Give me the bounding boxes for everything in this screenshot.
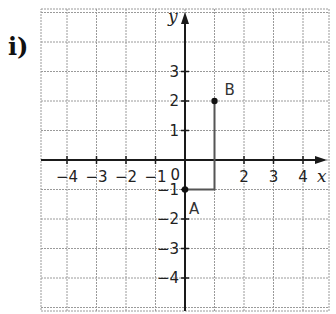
- x-tick-label: −3: [85, 168, 107, 186]
- x-tick-label: −2: [115, 168, 137, 186]
- point-a: [182, 186, 188, 192]
- y-tick-label: 2: [169, 92, 179, 110]
- x-tick-label: 4: [298, 168, 308, 186]
- origin-label: 0: [170, 166, 180, 184]
- y-tick-label: −2: [157, 210, 179, 228]
- x-axis-label: x: [317, 166, 327, 186]
- y-tick-label: 1: [169, 122, 179, 140]
- point-label-b: B: [225, 81, 235, 99]
- x-tick-label: 2: [239, 168, 249, 186]
- y-tick-label: −4: [157, 269, 179, 287]
- tick-labels: −4−3−2−1234321−1−2−3−40: [56, 63, 308, 288]
- y-axis-label: y: [167, 6, 178, 26]
- x-tick-label: −4: [56, 168, 78, 186]
- axes: xy: [41, 6, 327, 311]
- x-tick-label: 3: [269, 168, 279, 186]
- y-tick-label: 3: [169, 63, 179, 81]
- coordinate-plane: xy −4−3−2−1234321−1−2−3−40 AB: [0, 0, 336, 314]
- point-label-a: A: [189, 200, 200, 218]
- y-tick-label: −3: [157, 240, 179, 258]
- point-b: [211, 98, 217, 104]
